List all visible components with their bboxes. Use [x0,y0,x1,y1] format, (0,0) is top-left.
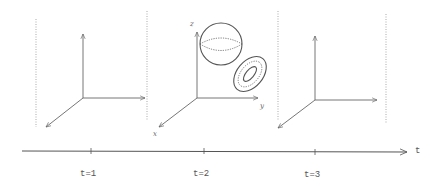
x-axis-arrow [278,100,315,128]
time-axis [22,148,407,155]
y-axis-label: y [260,102,264,110]
sphere [200,23,242,65]
tick-label-t2: t=2 [193,169,209,179]
time-axis-label: t [415,146,420,156]
tick-label-t1: t=1 [80,169,96,179]
slice-separators [36,11,386,127]
tick-label-t3: t=3 [304,170,320,180]
frame-3-axes [278,36,377,128]
spacetime-diagram [0,0,438,191]
z-axis-label: z [190,20,194,28]
time-axis-line [22,151,407,152]
x-axis-arrow [159,98,197,127]
frame-1-axes [46,34,145,127]
torus [227,50,273,97]
x-axis-arrow [46,98,83,127]
x-axis-label: x [153,130,157,138]
